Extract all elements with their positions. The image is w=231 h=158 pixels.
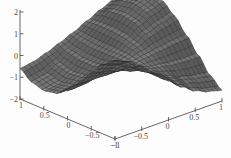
z-tick-label-0: 2 [14, 8, 18, 17]
y-tick-label-2: 0 [166, 122, 170, 131]
x-tick-label-0: 1 [19, 101, 23, 110]
x-tick-label-2: 0 [67, 121, 71, 130]
surface-mesh [20, 0, 222, 94]
y-tick-label-0: −1 [110, 141, 119, 150]
y-tick-label-3: 0.5 [189, 113, 199, 122]
x-tick-label-1: 0.5 [40, 111, 50, 120]
z-tick-label-4: −2 [9, 95, 18, 104]
plot-canvas: 210−1−210.50−0.5−1−1−0.500.51 [0, 0, 231, 158]
z-tick-label-1: 1 [14, 30, 18, 39]
surface-plot-figure: 210−1−210.50−0.5−1−1−0.500.51 [0, 0, 231, 158]
z-tick-label-3: −1 [9, 73, 18, 82]
z-tick-label-2: 0 [14, 52, 18, 61]
x-tick-label-3: −0.5 [85, 131, 100, 140]
y-tick-label-1: −0.5 [133, 132, 148, 141]
y-tick-label-4: 1 [219, 103, 223, 112]
